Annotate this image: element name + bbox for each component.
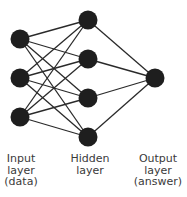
connection-line [88,20,155,78]
output-node [146,69,165,88]
input-node [11,69,30,88]
neurons [11,11,165,147]
hidden-node [79,11,98,30]
output-layer-label: Output layer (answer) [128,153,187,188]
hidden-node [79,89,98,108]
input-node [11,108,30,127]
hidden-layer-label: Hidden layer [60,153,120,176]
connection-line [88,78,155,98]
hidden-node [79,128,98,147]
hidden-node [79,50,98,69]
input-node [11,30,30,49]
connection-line [88,78,155,137]
connections [20,20,155,137]
input-layer-label: Input layer (data) [0,153,51,188]
connection-line [20,117,88,137]
